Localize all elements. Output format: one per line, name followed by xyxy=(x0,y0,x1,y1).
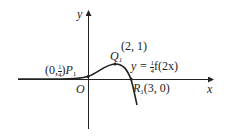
curve-equation-label: y = 14f(2x) xyxy=(131,60,178,75)
origin-label: O xyxy=(76,83,85,95)
diagram-canvas xyxy=(0,0,225,136)
x-axis-label: x xyxy=(207,83,212,95)
q1-coord-label: (2, 1) xyxy=(121,40,147,52)
p1-label: (0,14)P1 xyxy=(45,64,76,79)
point-p1 xyxy=(87,75,90,78)
r1-label: R1(3, 0) xyxy=(133,82,170,96)
y-axis-label: y xyxy=(77,8,82,20)
